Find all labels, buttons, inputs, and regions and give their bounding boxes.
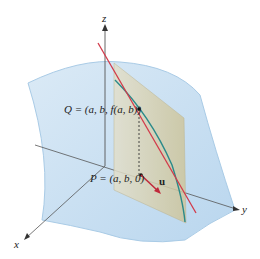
z-axis-label: z [102, 12, 106, 24]
directional-derivative-diagram [0, 0, 260, 259]
label-Q: Q = (a, b, f(a, b)) [64, 103, 141, 115]
y-axis-arrow [233, 206, 240, 211]
label-u: u [159, 175, 165, 187]
label-P: P = (a, b, 0) [90, 172, 144, 184]
z-axis-arrow [102, 24, 108, 31]
x-axis-label: x [14, 238, 19, 250]
x-axis-arrow [24, 233, 30, 240]
y-axis-label: y [242, 203, 247, 215]
